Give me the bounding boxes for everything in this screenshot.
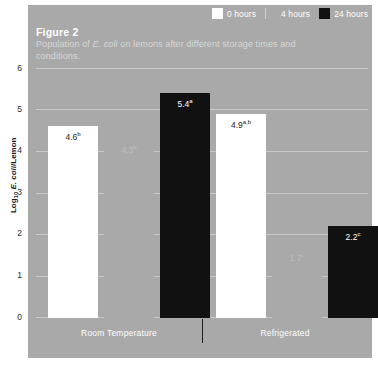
y-tick-6: 6 (0, 63, 22, 73)
bar-value-label: 1.7c (272, 252, 322, 263)
figure-title: Figure 2 (36, 26, 78, 38)
black-swatch-icon (319, 8, 330, 19)
figure-caption: Population of E. coli on lemons after di… (36, 39, 336, 62)
category-axis: Room Temperature Refrigerated (36, 319, 368, 351)
legend-item-0-hours: 0 hours (212, 8, 256, 19)
y-tick-1: 1 (0, 270, 22, 280)
bar-room-temperature-0-hours[interactable]: 4.6b (48, 126, 98, 318)
y-tick-3: 3 (0, 187, 22, 197)
y-tick-0: 0 (0, 312, 22, 322)
white-swatch-icon (212, 8, 223, 19)
legend-label-24-hours: 24 hours (334, 9, 368, 19)
chart-legend: 0 hours 4 hours 24 hours (212, 7, 368, 20)
caption-part-before: Population of (36, 39, 92, 49)
y-axis-title: Log10 E. coli/Lemon (9, 115, 20, 235)
y-tick-2: 2 (0, 228, 22, 238)
bar-refrigerated-0-hours[interactable]: 4.9a,b (216, 114, 266, 318)
y-tick-5: 5 (0, 104, 22, 114)
legend-label-0-hours: 0 hours (227, 9, 256, 19)
bar-value-label: 4.9a,b (216, 119, 266, 130)
legend-item-24-hours: 24 hours (319, 8, 368, 19)
gridline-6 (36, 68, 368, 69)
y-tick-4: 4 (0, 145, 22, 155)
bar-room-temperature-24-hours[interactable]: 5.4a (160, 93, 210, 318)
gray-swatch-icon (265, 8, 277, 19)
bar-refrigerated-24-hours[interactable]: 2.2c (328, 226, 378, 318)
legend-label-4-hours: 4 hours (281, 9, 310, 19)
bar-room-temperature-4-hours[interactable]: 4.3b (104, 139, 154, 318)
bar-value-label: 4.3b (104, 144, 154, 155)
bar-refrigerated-4-hours[interactable]: 1.7c (272, 247, 322, 318)
bar-value-label: 4.6b (48, 131, 98, 142)
category-label-room-temperature: Room Temperature (36, 328, 202, 338)
bar-value-label: 5.4a (160, 98, 210, 109)
plot-area: 4.6b 4.3b 5.4a 4.9a,b 1.7c 2.2c (36, 68, 368, 318)
bar-value-label: 2.2c (328, 231, 378, 242)
category-label-refrigerated: Refrigerated (202, 328, 368, 338)
legend-item-4-hours: 4 hours (265, 8, 310, 19)
caption-part-italic: E. coli (92, 39, 117, 49)
